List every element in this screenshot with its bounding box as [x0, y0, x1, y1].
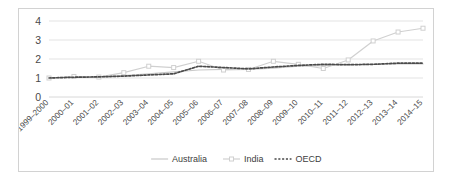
- data-point-marker: [172, 66, 176, 70]
- data-series-group: [47, 26, 425, 80]
- y-axis-tick-labels: 01234: [35, 15, 41, 103]
- x-tick-label-11: 2010–11: [296, 98, 325, 127]
- chart-legend: AustraliaIndiaOECD: [151, 154, 322, 164]
- legend-item-oecd[interactable]: OECD: [275, 154, 323, 164]
- x-tick-label-8: 2007–08: [221, 98, 250, 127]
- x-tick-label-12: 2011–12: [321, 98, 350, 127]
- data-point-marker: [421, 26, 425, 30]
- legend-marker-india: [230, 157, 234, 161]
- data-point-marker: [147, 64, 151, 68]
- data-point-marker: [396, 30, 400, 34]
- y-tick-label-4: 4: [35, 15, 41, 27]
- data-point-marker: [122, 71, 126, 75]
- x-tick-label-6: 2005–06: [171, 98, 200, 127]
- x-tick-label-15: 2014–15: [396, 98, 425, 127]
- data-point-marker: [271, 59, 275, 63]
- x-tick-label-9: 2008–09: [246, 98, 275, 127]
- x-tick-label-5: 2004–05: [146, 98, 175, 127]
- legend-label-oecd: OECD: [296, 154, 323, 164]
- y-tick-label-2: 2: [35, 53, 41, 65]
- data-point-marker: [321, 67, 325, 71]
- x-tick-label-4: 2003–04: [121, 98, 150, 127]
- x-tick-label-3: 2002–03: [96, 98, 125, 127]
- legend-item-india[interactable]: India: [223, 154, 264, 164]
- x-axis-tick-labels: 1999–20002000–012001–022002–032003–04200…: [19, 98, 425, 134]
- data-point-marker: [346, 58, 350, 62]
- y-tick-label-3: 3: [35, 34, 41, 46]
- x-tick-label-10: 2009–10: [271, 98, 300, 127]
- y-tick-label-1: 1: [35, 72, 41, 84]
- x-tick-label-7: 2006–07: [196, 98, 225, 127]
- legend-item-australia[interactable]: Australia: [151, 154, 207, 164]
- series-line-india: [49, 28, 423, 78]
- x-tick-label-2: 2001–02: [71, 98, 100, 127]
- data-point-marker: [222, 68, 226, 72]
- data-point-marker: [371, 39, 375, 43]
- legend-label-india: India: [244, 154, 264, 164]
- chart-plot-area: 01234 1999–20002000–012001–022002–032003…: [19, 9, 433, 171]
- data-point-marker: [197, 59, 201, 63]
- x-tick-label-0: 1999–2000: [19, 98, 51, 134]
- x-tick-label-13: 2012–13: [346, 98, 375, 127]
- line-chart: 01234 1999–20002000–012001–022002–032003…: [19, 9, 433, 171]
- x-tick-label-14: 2013–14: [371, 98, 400, 127]
- chart-container: 01234 1999–20002000–012001–022002–032003…: [18, 8, 434, 172]
- gridlines-group: [49, 21, 423, 97]
- legend-label-australia: Australia: [172, 154, 207, 164]
- x-tick-label-1: 2000–01: [46, 98, 75, 127]
- series-india: [47, 26, 425, 80]
